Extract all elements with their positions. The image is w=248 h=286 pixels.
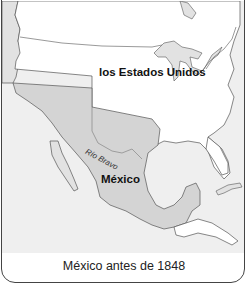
map-caption: México antes de 1848 [0,259,248,273]
map-frame: los Estados Unidos Río Bravo México [1,0,245,283]
mexico-label: México [101,173,140,185]
united-states-label: los Estados Unidos [99,66,206,78]
map-graphic [2,1,245,253]
